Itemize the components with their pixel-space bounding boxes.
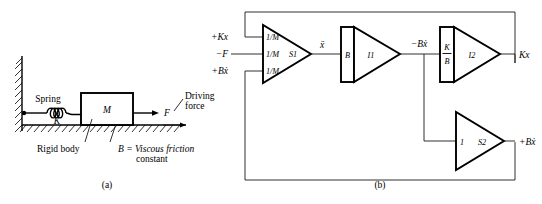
- driving-force-label-line2: force: [185, 101, 205, 111]
- friction-leader: [110, 124, 116, 142]
- integrator-i1-gain: B: [345, 51, 350, 60]
- spring-lead-right: [66, 113, 81, 115]
- integrator-i2-id: I2: [468, 51, 476, 60]
- summer-s1-gain-3: 1/M: [266, 67, 280, 76]
- force-arrowhead: [152, 110, 159, 116]
- damping-positive-label: +Bẋ: [519, 137, 536, 147]
- summer-s2-gain: 1: [460, 138, 464, 147]
- ground-hatching: [20, 125, 180, 132]
- driving-force-label-line1: Driving: [185, 91, 215, 101]
- force-label: F: [163, 108, 170, 118]
- acceleration-label: ẍ: [319, 40, 325, 50]
- ground-arrowhead: [180, 123, 186, 128]
- integrator-i1-id: I1: [367, 51, 375, 60]
- driving-force-input-label: −F: [216, 49, 228, 59]
- rigid-body-label: Rigid body: [37, 144, 80, 154]
- integrator-i2: [454, 27, 500, 82]
- figure-container: M Spring K F Driving force Rigid body B …: [0, 0, 542, 204]
- damping-force-input-label: +Bẋ: [212, 66, 229, 76]
- driving-force-leader: [174, 99, 183, 111]
- summer-s1-id: S1: [289, 50, 297, 59]
- integrator-i2-gain-denominator: B: [444, 57, 449, 66]
- friction-label-line2: constant: [136, 154, 168, 164]
- mass-label: M: [102, 105, 112, 115]
- panel-b-block-diagram: 1/M 1/M 1/M S1 +Kx −F +Bẋ ẍ B I1 −Bẋ K: [211, 12, 536, 191]
- summer-s1-gain-1: 1/M: [266, 33, 280, 42]
- spring-output-label: Kx: [518, 50, 530, 60]
- integrator-i2-gain-box: [440, 27, 454, 82]
- integrator-i1: [354, 27, 400, 82]
- integrator-i2-gain-numerator: K: [443, 43, 450, 52]
- friction-label-line1: B = Viscous friction: [118, 144, 194, 154]
- summer-s2-id: S2: [478, 138, 486, 147]
- spring-constant-label: K: [53, 116, 61, 126]
- panel-b-caption: (b): [374, 180, 385, 191]
- panel-a-caption: (a): [102, 180, 113, 191]
- wall-hatching: [15, 58, 22, 132]
- panel-a-mechanical-system: M Spring K F Driving force Rigid body B …: [15, 56, 215, 191]
- spring-label: Spring: [35, 94, 61, 104]
- spring-force-input-label: +Kx: [211, 32, 229, 42]
- summer-s1-gain-2: 1/M: [266, 50, 280, 59]
- damping-negative-label: −Bẋ: [411, 39, 428, 49]
